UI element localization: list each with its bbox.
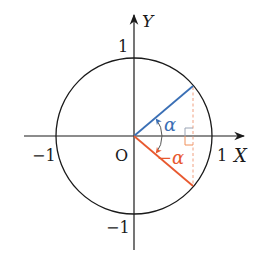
positive-angle-arc — [157, 120, 163, 137]
right-angle-mark-top — [185, 128, 193, 136]
positive-angle-label: α — [164, 114, 176, 135]
right-angle-mark-bottom — [185, 136, 193, 145]
negative-angle-label: −α — [157, 147, 184, 168]
y-tick-label-1: 1 — [118, 37, 128, 56]
x-tick-label-neg1: −1 — [32, 146, 56, 165]
y-axis-label: Y — [142, 11, 155, 31]
diagram-canvas: Y X 1 −1 −1 1 O α −α — [0, 0, 262, 258]
x-axis-label: X — [232, 145, 248, 166]
x-tick-label-1: 1 — [217, 146, 227, 165]
origin-label: O — [115, 146, 128, 165]
unit-circle-diagram: Y X 1 −1 −1 1 O α −α — [0, 0, 262, 258]
y-tick-label-neg1: −1 — [106, 218, 130, 237]
